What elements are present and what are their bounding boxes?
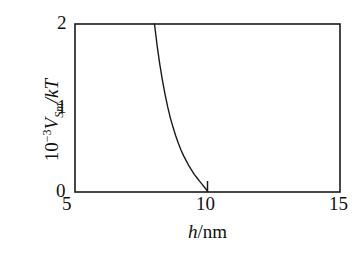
y-axis-title-variable: V <box>41 118 62 130</box>
y-tick-label-2: 2 <box>57 13 67 32</box>
y-axis-title-exponent: −3 <box>40 129 54 142</box>
x-tick-label-15: 15 <box>329 194 348 213</box>
y-axis-title-mantissa: 10 <box>41 142 62 161</box>
x-axis-title: h/nm <box>75 222 340 241</box>
data-curve <box>155 24 208 191</box>
plot-frame <box>75 24 340 192</box>
x-tick-label-10: 10 <box>196 194 215 213</box>
y-tick-label-1: 1 <box>57 97 67 116</box>
x-axis-title-unit: /nm <box>197 221 227 242</box>
figure-canvas: 10−3VSm/kT h/nm 5 10 15 0 1 2 <box>0 0 363 257</box>
y-tick-label-0: 0 <box>56 181 66 200</box>
